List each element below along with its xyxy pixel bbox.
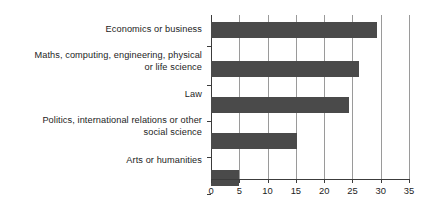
x-tick-label-25: 25: [337, 185, 367, 196]
bar-1: [211, 61, 359, 77]
bar-4: [211, 170, 239, 186]
x-tick-label-30: 30: [366, 185, 396, 196]
y-tick-3: [207, 157, 211, 158]
x-tick-label-35: 35: [394, 185, 424, 196]
category-label-2: Law: [4, 89, 202, 101]
bar-3: [211, 133, 297, 149]
y-tick-0: [207, 46, 211, 47]
gridline-25: [352, 15, 353, 179]
bar-0: [211, 22, 377, 38]
gridline-30: [381, 15, 382, 179]
x-tick-10: [268, 179, 269, 183]
x-tick-25: [352, 179, 353, 183]
gridline-35: [409, 15, 410, 179]
bar-2: [211, 97, 349, 113]
x-tick-35: [409, 179, 410, 183]
category-label-4: Arts or humanities: [4, 155, 202, 167]
x-tick-label-0: 0: [196, 185, 226, 196]
x-tick-15: [296, 179, 297, 183]
plot-area: [211, 15, 409, 179]
x-tick-label-15: 15: [281, 185, 311, 196]
category-label-0: Economics or business: [4, 24, 202, 36]
x-tick-0: [211, 179, 212, 183]
x-tick-30: [381, 179, 382, 183]
x-tick-label-20: 20: [309, 185, 339, 196]
category-labels: Economics or business Maths, computing, …: [0, 0, 206, 207]
y-tick-2: [207, 121, 211, 122]
x-tick-label-10: 10: [253, 185, 283, 196]
x-tick-5: [239, 179, 240, 183]
x-tick-label-5: 5: [224, 185, 254, 196]
y-tick-1: [207, 85, 211, 86]
horizontal-bar-chart: Economics or business Maths, computing, …: [0, 0, 428, 207]
x-tick-20: [324, 179, 325, 183]
category-label-1: Maths, computing, engineering, physical …: [4, 50, 202, 73]
category-label-3: Politics, international relations or oth…: [4, 115, 202, 138]
